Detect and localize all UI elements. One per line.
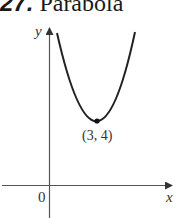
vertex-label: (3, 4)	[82, 128, 113, 144]
y-axis-label: y	[33, 23, 42, 39]
vertex-point	[94, 118, 99, 123]
parabola-plot: y x 0 (3, 4)	[0, 0, 180, 218]
parabola-curve	[57, 32, 135, 121]
x-axis-label: x	[165, 189, 173, 205]
origin-label: 0	[38, 189, 46, 205]
